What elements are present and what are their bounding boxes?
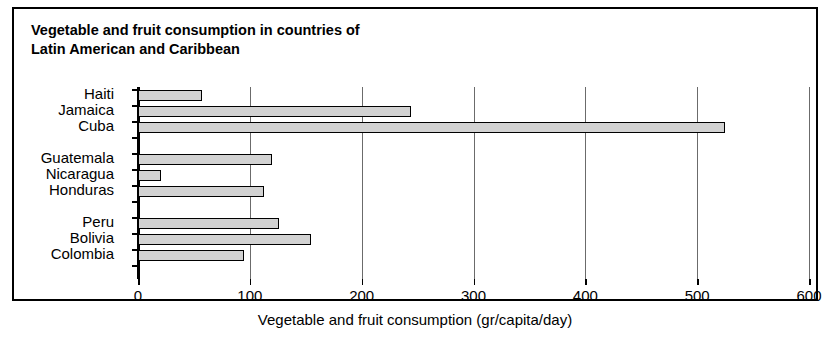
y-tick-3 [132, 137, 138, 139]
category-label-guatemala: Guatemala [41, 149, 114, 166]
category-label-colombia: Colombia [51, 245, 114, 262]
category-label-nicaragua: Nicaragua [46, 165, 114, 182]
y-tick-5 [132, 169, 138, 171]
gridline-500 [697, 87, 698, 279]
x-tick-label-200: 200 [349, 287, 374, 304]
chart-title: Vegetable and fruit consumption in count… [31, 21, 631, 59]
y-tick-6 [132, 185, 138, 187]
category-label-bolivia: Bolivia [70, 229, 114, 246]
y-tick-9 [132, 233, 138, 235]
x-tick-300 [474, 279, 476, 285]
x-tick-label-0: 0 [134, 287, 142, 304]
x-tick-label-300: 300 [461, 287, 486, 304]
category-label-jamaica: Jamaica [58, 101, 114, 118]
x-axis-title: Vegetable and fruit consumption (gr/capi… [0, 311, 830, 328]
category-label-cuba: Cuba [78, 117, 114, 134]
y-tick-8 [132, 217, 138, 219]
bar-cuba [138, 122, 725, 133]
bar-haiti [138, 90, 202, 101]
y-tick-2 [132, 121, 138, 123]
x-tick-label-400: 400 [573, 287, 598, 304]
x-tick-600 [809, 279, 811, 285]
y-tick-11 [132, 265, 138, 267]
x-tick-label-600: 600 [796, 287, 821, 304]
y-tick-0 [132, 89, 138, 91]
plot-area: 0100200300400500600 [138, 91, 809, 276]
y-tick-7 [132, 201, 138, 203]
x-tick-100 [250, 279, 252, 285]
bar-jamaica [138, 106, 411, 117]
y-tick-1 [132, 105, 138, 107]
x-tick-500 [697, 279, 699, 285]
category-label-haiti: Haiti [84, 85, 114, 102]
category-label-peru: Peru [82, 213, 114, 230]
x-tick-200 [362, 279, 364, 285]
gridline-300 [474, 87, 475, 279]
gridline-400 [585, 87, 586, 279]
bar-nicaragua [138, 170, 161, 181]
y-tick-4 [132, 153, 138, 155]
category-label-honduras: Honduras [49, 181, 114, 198]
x-tick-label-100: 100 [237, 287, 262, 304]
bar-colombia [138, 250, 244, 261]
bar-guatemala [138, 154, 272, 165]
bar-peru [138, 218, 279, 229]
chart-figure: Vegetable and fruit consumption in count… [12, 7, 818, 301]
bar-bolivia [138, 234, 311, 245]
bar-honduras [138, 186, 264, 197]
gridline-600 [809, 87, 810, 279]
x-tick-label-500: 500 [685, 287, 710, 304]
x-tick-400 [585, 279, 587, 285]
x-tick-0 [138, 279, 140, 285]
y-tick-10 [132, 249, 138, 251]
